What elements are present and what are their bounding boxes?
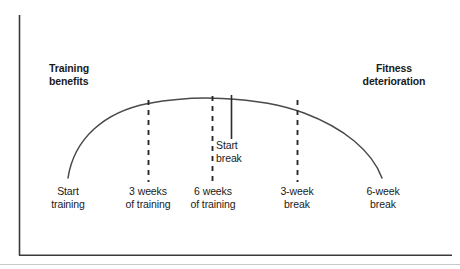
annotation-fitness-deterioration: Fitness deterioration [363,62,426,87]
x-tick-label-6-weeks-training: 6 weeks of training [190,185,235,210]
x-tick-label-3-weeks-training: 3 weeks of training [125,185,170,210]
x-tick-label-3-week-break: 3-week break [280,185,313,210]
chart-canvas [0,0,460,269]
annotation-start-break: Start break [216,139,242,164]
x-tick-label-start-training: Start training [51,185,85,210]
fitness-curve-path [68,98,382,178]
x-tick-label-6-week-break: 6-week break [366,185,399,210]
fitness-curve-figure: Training benefits Fitness deterioration … [0,0,460,269]
annotation-training-benefits: Training benefits [49,62,89,87]
